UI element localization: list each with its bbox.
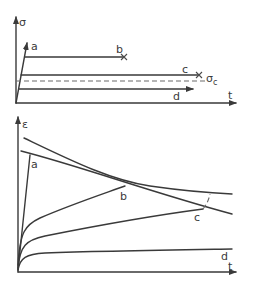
curve-d [18,249,232,270]
curve-a-label: a [31,158,38,171]
failure-envelope-lower [21,151,232,214]
critical-stress-label: σc [206,72,217,87]
sigma-axis-label: σ [19,16,26,29]
failure-envelope-upper [24,138,232,194]
curve-d-label: d [221,250,228,263]
epsilon-axis-label: ε [22,118,28,131]
time-axis-label: t [228,89,233,102]
time-axis-label: t [228,260,233,273]
curve-b-label: b [120,190,127,203]
creep-rupture-diagram: σ t a b c σc d ε t a b [0,0,257,289]
curve-d-label: d [173,90,180,103]
curve-a [18,155,30,270]
strain-time-chart: ε t a b c d [18,117,236,273]
curve-a-label: a [31,40,38,53]
curve-c-label: c [194,211,200,224]
curve-b-label: b [116,43,123,56]
curve-c-label: c [182,63,188,76]
curve-c [18,209,203,268]
curve-b [18,186,125,265]
stress-time-chart: σ t a b c σc d [16,16,236,103]
curve-a-load-line [16,43,27,103]
